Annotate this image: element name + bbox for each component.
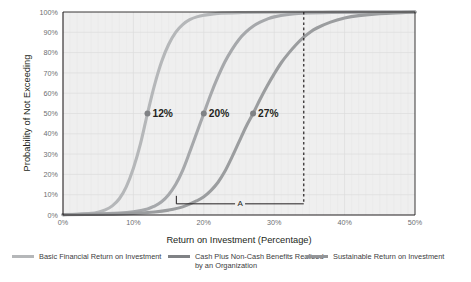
y-tick-70%: 70% (44, 69, 59, 78)
median-markers: 12%20%27% (144, 108, 278, 119)
legend-label-2-line2: by an Organization (195, 261, 257, 270)
chart-container: A 12%20%27% 0%10%20%30%40%50%60%70%80%90… (0, 0, 471, 282)
y-tick-90%: 90% (44, 28, 59, 37)
y-tick-100%: 100% (40, 8, 59, 17)
y-tick-30%: 30% (44, 150, 59, 159)
x-tick-20%: 20% (197, 218, 212, 227)
y-tick-80%: 80% (44, 48, 59, 57)
chart-legend: Basic Financial Return on InvestmentCash… (12, 252, 444, 270)
y-tick-20%: 20% (44, 170, 59, 179)
median-marker-label-3: 27% (258, 108, 278, 119)
median-marker-3 (250, 111, 256, 117)
y-tick-40%: 40% (44, 129, 59, 138)
median-marker-label-2: 20% (209, 108, 229, 119)
x-tick-10%: 10% (126, 218, 141, 227)
median-marker-label-1: 12% (152, 108, 172, 119)
legend-label-1: Basic Financial Return on Investment (39, 252, 161, 261)
median-marker-2 (201, 111, 207, 117)
x-axis-title: Return on Investment (Percentage) (166, 235, 311, 245)
x-tick-50%: 50% (408, 218, 423, 227)
y-tick-60%: 60% (44, 89, 59, 98)
x-axis-tick-labels: 0%10%20%30%40%50% (58, 218, 423, 227)
x-tick-40%: 40% (337, 218, 352, 227)
bracket-label: A (237, 199, 243, 208)
y-axis-tick-labels: 0%10%20%30%40%50%60%70%80%90%100% (40, 8, 59, 220)
median-marker-1 (144, 111, 150, 117)
legend-label-3: Sustainable Return on Investment (333, 252, 444, 261)
x-tick-0%: 0% (58, 218, 69, 227)
y-tick-10%: 10% (44, 190, 59, 199)
y-tick-50%: 50% (44, 109, 59, 118)
cumulative-probability-chart: A 12%20%27% 0%10%20%30%40%50%60%70%80%90… (0, 0, 471, 282)
x-tick-30%: 30% (267, 218, 282, 227)
y-axis-title: Probability of Not Exceeding (22, 55, 32, 172)
